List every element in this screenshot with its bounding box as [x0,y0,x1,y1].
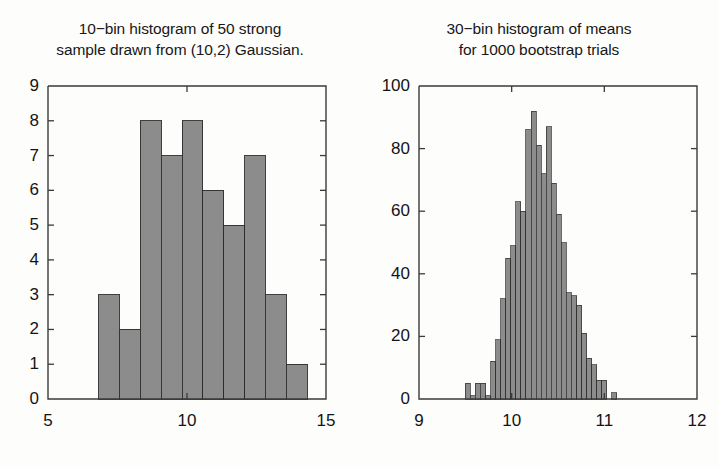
y-tick-label: 100 [382,76,410,95]
x-tick-label: 10 [178,411,197,430]
histogram-bar [587,358,592,399]
histogram-bar [551,183,556,399]
y-tick-label: 80 [391,139,410,158]
histogram-bar [577,305,582,399]
histogram-bar [140,121,161,399]
histogram-bar [245,156,266,399]
histogram-bar [475,383,480,399]
x-tick-label: 5 [43,411,52,430]
x-tick-label: 9 [414,411,423,430]
y-tick-label: 2 [30,319,39,338]
histogram-bar [224,225,245,399]
y-tick-label: 20 [391,326,410,345]
histogram-bar [541,174,546,399]
histogram-bar [161,156,182,399]
y-tick-label: 1 [30,354,39,373]
histogram-bar [203,190,224,399]
histogram-bar [556,214,561,399]
histogram-bar [286,364,307,399]
histogram-bar [566,293,571,399]
histogram-bar [511,246,516,399]
histogram-bar [561,243,566,400]
y-tick-label: 0 [401,389,410,408]
histogram-bar [521,211,526,399]
histogram-bar [516,202,521,399]
sample-histogram-plot: 012345678951015 [0,0,360,469]
y-tick-label: 9 [30,76,39,95]
y-tick-label: 5 [30,215,39,234]
y-tick-label: 8 [30,111,39,130]
y-tick-label: 6 [30,180,39,199]
x-tick-label: 12 [688,411,707,430]
histogram-bar [592,365,597,399]
y-tick-label: 3 [30,285,39,304]
histogram-bar [597,380,602,399]
histogram-bar [496,340,501,399]
histogram-bar [182,121,203,399]
x-tick-label: 15 [317,411,336,430]
histogram-bar [546,127,551,399]
histogram-bar [612,393,617,399]
figure-canvas: 10−bin histogram of 50 strong sample dra… [0,0,719,469]
x-tick-label: 11 [596,411,614,430]
histogram-bar [526,130,531,399]
x-tick-label: 10 [502,411,521,430]
histogram-bar [501,299,506,399]
y-tick-label: 60 [391,201,410,220]
histogram-bar [571,296,576,399]
histogram-bar [506,258,511,399]
y-tick-label: 4 [30,250,39,269]
histogram-bar [265,295,286,399]
bootstrap-histogram-plot: 0204060801009101112 [359,0,719,469]
histogram-bar [582,333,587,399]
histogram-bar [531,111,536,399]
histogram-bar [465,383,470,399]
histogram-bar [99,295,120,399]
histogram-bar [119,329,140,399]
histogram-bar [536,145,541,399]
histogram-bar [480,383,485,399]
y-tick-label: 7 [30,146,39,165]
y-tick-label: 0 [30,389,39,408]
panel-sample-histogram: 10−bin histogram of 50 strong sample dra… [0,0,360,469]
panel-bootstrap-histogram: 30−bin histogram of means for 1000 boots… [359,0,719,469]
y-tick-label: 40 [391,264,410,283]
histogram-bar [491,361,496,399]
